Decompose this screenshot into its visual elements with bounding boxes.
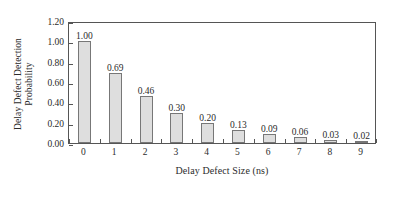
y-axis-tick	[69, 125, 73, 126]
bar-chart-figure: Delay Defect Detection Probability 0.000…	[0, 0, 393, 209]
y-axis-tick	[69, 145, 73, 146]
bar	[109, 73, 122, 143]
x-axis-tick	[254, 139, 255, 143]
x-axis-tick-label: 2	[143, 147, 148, 158]
y-axis-tick-label: 0.80	[30, 58, 64, 68]
bar	[78, 41, 91, 143]
bar-value-label: 0.46	[138, 86, 155, 96]
bar	[201, 123, 214, 143]
x-axis-tick	[285, 139, 286, 143]
y-axis-tick-label: 1.20	[30, 17, 64, 27]
bar	[355, 141, 368, 143]
bar	[170, 113, 183, 144]
y-axis-tick	[69, 104, 73, 105]
x-axis-tick-label: 0	[81, 147, 86, 158]
plot-area: 1.000.690.460.300.200.130.090.060.030.02	[68, 22, 376, 144]
x-axis-tick	[223, 139, 224, 143]
x-axis-tick	[315, 139, 316, 143]
bar	[263, 134, 276, 143]
x-axis-tick	[192, 139, 193, 143]
y-axis-tick-label: 0.20	[30, 119, 64, 129]
x-axis-tick	[69, 139, 70, 143]
x-axis-tick-label: 7	[297, 147, 302, 158]
y-axis-tick-label: 0.40	[30, 98, 64, 108]
x-axis-tick-labels: 0123456789	[68, 147, 376, 161]
bar-value-label: 0.06	[292, 127, 309, 137]
x-axis-tick	[346, 139, 347, 143]
bar-value-label: 1.00	[76, 31, 93, 41]
x-axis-tick	[131, 139, 132, 143]
y-axis-title-line-1: Delay Defect Detection	[13, 38, 24, 130]
x-axis-tick	[161, 139, 162, 143]
x-axis-title: Delay Defect Size (ns)	[68, 165, 376, 177]
x-axis-tick-label: 4	[204, 147, 209, 158]
x-axis-tick-label: 1	[112, 147, 117, 158]
bar	[140, 96, 153, 143]
y-axis-tick-label: 1.00	[30, 37, 64, 47]
bar-value-label: 0.02	[353, 131, 370, 141]
x-axis-tick-label: 3	[173, 147, 178, 158]
bar	[232, 130, 245, 143]
x-axis-tick-label: 5	[235, 147, 240, 158]
bar-value-label: 0.20	[199, 113, 216, 123]
y-axis-tick-labels: 0.000.200.400.600.801.001.20	[28, 22, 64, 144]
bar	[324, 140, 337, 143]
y-axis-tick-label: 0.00	[30, 139, 64, 149]
x-axis-tick-label: 8	[327, 147, 332, 158]
x-axis-tick-label: 9	[358, 147, 363, 158]
y-axis-tick	[69, 23, 73, 24]
y-axis-tick	[69, 43, 73, 44]
bar-value-label: 0.13	[230, 120, 247, 130]
x-axis-tick	[100, 139, 101, 143]
x-axis-tick	[376, 139, 377, 143]
bar-value-label: 0.30	[168, 103, 185, 113]
bar-value-label: 0.09	[261, 124, 278, 134]
y-axis-tick-label: 0.60	[30, 78, 64, 88]
y-axis-tick	[69, 64, 73, 65]
y-axis-tick	[69, 84, 73, 85]
bar-value-label: 0.03	[322, 130, 339, 140]
bar	[294, 137, 307, 143]
x-axis-tick-label: 6	[266, 147, 271, 158]
bar-value-label: 0.69	[107, 63, 124, 73]
